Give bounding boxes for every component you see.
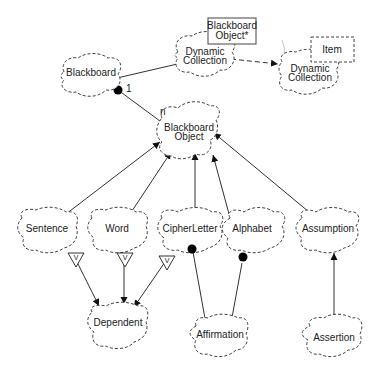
edge-assumption-inherits xyxy=(214,133,309,212)
edge-sentence-virtual-dependent xyxy=(77,262,99,306)
class-diagram: Blackboard Dynamic Collection Blackboard… xyxy=(0,0,377,367)
class-name: Blackboard xyxy=(66,67,116,78)
multiplicity-target: n xyxy=(160,106,166,117)
svg-text:V: V xyxy=(123,254,128,261)
class-name: Word xyxy=(105,223,129,234)
edge-affirmation-has-alphabet xyxy=(231,263,242,323)
class-dependent[interactable]: Dependent xyxy=(88,302,148,348)
class-assumption[interactable]: Assumption xyxy=(296,208,359,253)
class-name: Dependent xyxy=(94,317,143,328)
edge-alphabet-inherits xyxy=(213,155,229,214)
virtual-marker-sentence: V xyxy=(68,253,84,267)
edge-cipherletter-virtual-dependent xyxy=(134,262,165,307)
class-name-line2: Object xyxy=(175,131,204,142)
class-word[interactable]: Word xyxy=(88,207,148,253)
class-name-line2: Collection xyxy=(288,72,332,83)
has-filled-circle-icon xyxy=(188,245,197,254)
edge-word-inherits xyxy=(130,152,171,214)
edge-sentence-inherits xyxy=(66,142,160,214)
class-name: Assumption xyxy=(302,223,354,234)
multiplicity-source: 1 xyxy=(126,83,132,94)
class-assertion[interactable]: Assertion xyxy=(302,314,362,356)
class-blackboard-object[interactable]: Blackboard Object xyxy=(157,102,220,159)
class-name: CipherLetter xyxy=(162,223,218,234)
edge-instantiation xyxy=(231,59,278,64)
class-sentence[interactable]: Sentence xyxy=(18,207,78,253)
edge-blackboard-has-objects xyxy=(118,90,164,124)
svg-text:V: V xyxy=(74,254,79,261)
class-name: Affirmation xyxy=(196,329,244,340)
class-blackboard[interactable]: Blackboard xyxy=(61,54,121,97)
class-name-line2: Collection xyxy=(183,55,227,66)
virtual-marker-word: V xyxy=(117,253,133,267)
class-dynamic-collection-blackboard-object[interactable]: Dynamic Collection Blackboard Object* xyxy=(175,18,257,76)
class-name: Assertion xyxy=(313,332,355,343)
class-name: Sentence xyxy=(26,223,69,234)
class-affirmation[interactable]: Affirmation xyxy=(190,314,248,356)
edge-affirmation-has-cipherletter xyxy=(193,252,206,324)
class-name: Alphabet xyxy=(232,223,272,234)
svg-text:V: V xyxy=(165,257,170,264)
param-line2: Object* xyxy=(216,30,249,41)
class-dynamic-collection-item[interactable]: Dynamic Collection Item xyxy=(279,37,354,94)
param-item: Item xyxy=(322,44,341,55)
has-filled-circle-icon xyxy=(239,253,248,262)
class-alphabet[interactable]: Alphabet xyxy=(222,208,285,253)
